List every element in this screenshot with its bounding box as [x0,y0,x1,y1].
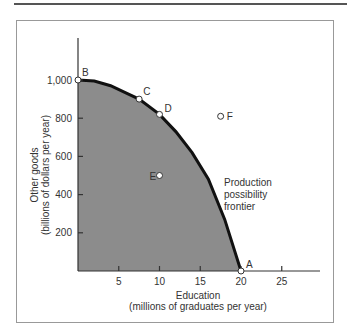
point-label-c: C [143,86,150,97]
point-label-e: E [150,171,157,182]
point-a [238,268,244,274]
y-tick-label: 600 [55,151,72,162]
point-label-d: D [165,103,172,114]
point-label-a: A [246,259,253,270]
ppf-chart: 2004006008001,000 510152025 ABCDEF Produ… [0,0,347,335]
frontier-label-1: Production [224,177,272,188]
point-f [218,113,224,119]
x-axis-subtitle: (millions of graduates per year) [129,301,267,312]
y-axis-title: Other goods [29,147,40,202]
y-tick-label: 1,000 [47,75,72,86]
y-tick-label: 200 [55,227,72,238]
point-e [157,173,163,179]
y-axis-subtitle: (billions of dollars per year) [40,115,51,235]
y-tick-label: 400 [55,189,72,200]
x-axis-title: Education [176,290,220,301]
point-c [136,96,142,102]
point-d [157,111,163,117]
frontier-label-2: possibility [224,189,267,200]
x-tick-label: 20 [235,276,247,287]
x-tick-label: 25 [276,276,288,287]
point-b [75,77,81,83]
x-tick-label: 15 [195,276,207,287]
point-label-f: F [227,111,233,122]
x-tick-label: 10 [154,276,166,287]
x-tick-label: 5 [116,276,122,287]
point-label-b: B [82,67,89,78]
frontier-label-3: frontier [224,201,256,212]
y-tick-label: 800 [55,113,72,124]
